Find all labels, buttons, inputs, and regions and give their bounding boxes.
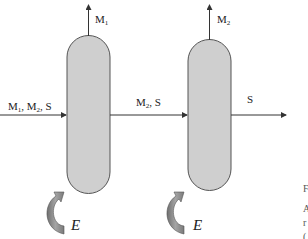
vessel-1 bbox=[67, 36, 110, 194]
outlet-label: S bbox=[247, 93, 253, 105]
inlet-label: M1, M2, S bbox=[8, 100, 52, 116]
energy-label-2: E bbox=[193, 217, 202, 234]
energy-arrow-1-icon bbox=[47, 192, 64, 234]
energy-arrow-2-icon bbox=[167, 192, 184, 234]
intermediate-stream-label: M2, S bbox=[136, 96, 161, 112]
vessel-2-output-label: M2 bbox=[217, 13, 230, 29]
vessel-1-output-label: M1 bbox=[95, 13, 108, 29]
energy-label-1: E bbox=[71, 217, 80, 234]
side-caption-fragment: F A r ( bbox=[303, 182, 308, 239]
process-diagram bbox=[0, 0, 308, 239]
vessel-2 bbox=[188, 40, 231, 191]
